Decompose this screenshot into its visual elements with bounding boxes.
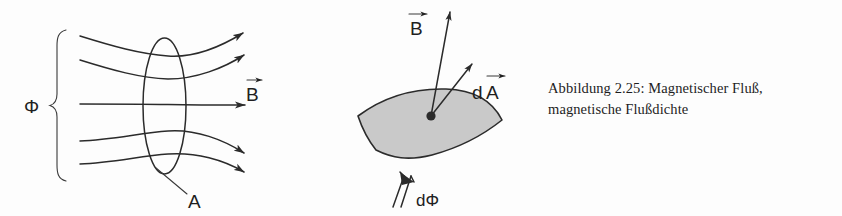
dphi-label: dΦ — [416, 191, 439, 210]
field-line — [80, 104, 245, 105]
caption-line-1: Abbildung 2.25: Magnetischer Fluß, — [548, 78, 824, 99]
field-line — [80, 33, 243, 56]
area-symbol-label: A — [188, 191, 201, 212]
b-vector-label-left-group: B — [246, 80, 262, 105]
figure-container: Φ A B — [0, 0, 842, 216]
field-line — [80, 154, 244, 172]
left-diagram-group: Φ A B — [24, 30, 262, 212]
b-vector-label-left: B — [246, 84, 259, 105]
field-line — [80, 131, 244, 153]
magnetic-field-lines-group — [80, 33, 245, 172]
double-line-up-arrow-icon — [393, 172, 414, 207]
b-vector-label-right: B — [410, 18, 423, 39]
da-vector-label-group: d A — [472, 76, 505, 103]
field-line — [80, 55, 244, 79]
da-vector-label: A — [486, 82, 499, 103]
right-diagram-group: B d A dΦ — [358, 12, 505, 210]
area-leader-line — [156, 168, 187, 194]
b-vector-label-right-group: B — [409, 14, 427, 39]
da-prefix-label: d — [472, 82, 483, 103]
curly-brace-icon — [50, 30, 66, 181]
flux-symbol-label: Φ — [24, 96, 39, 117]
figure-caption: Abbildung 2.25: Magnetischer Fluß, magne… — [548, 78, 824, 120]
caption-line-2: magnetische Flußdichte — [548, 99, 824, 120]
